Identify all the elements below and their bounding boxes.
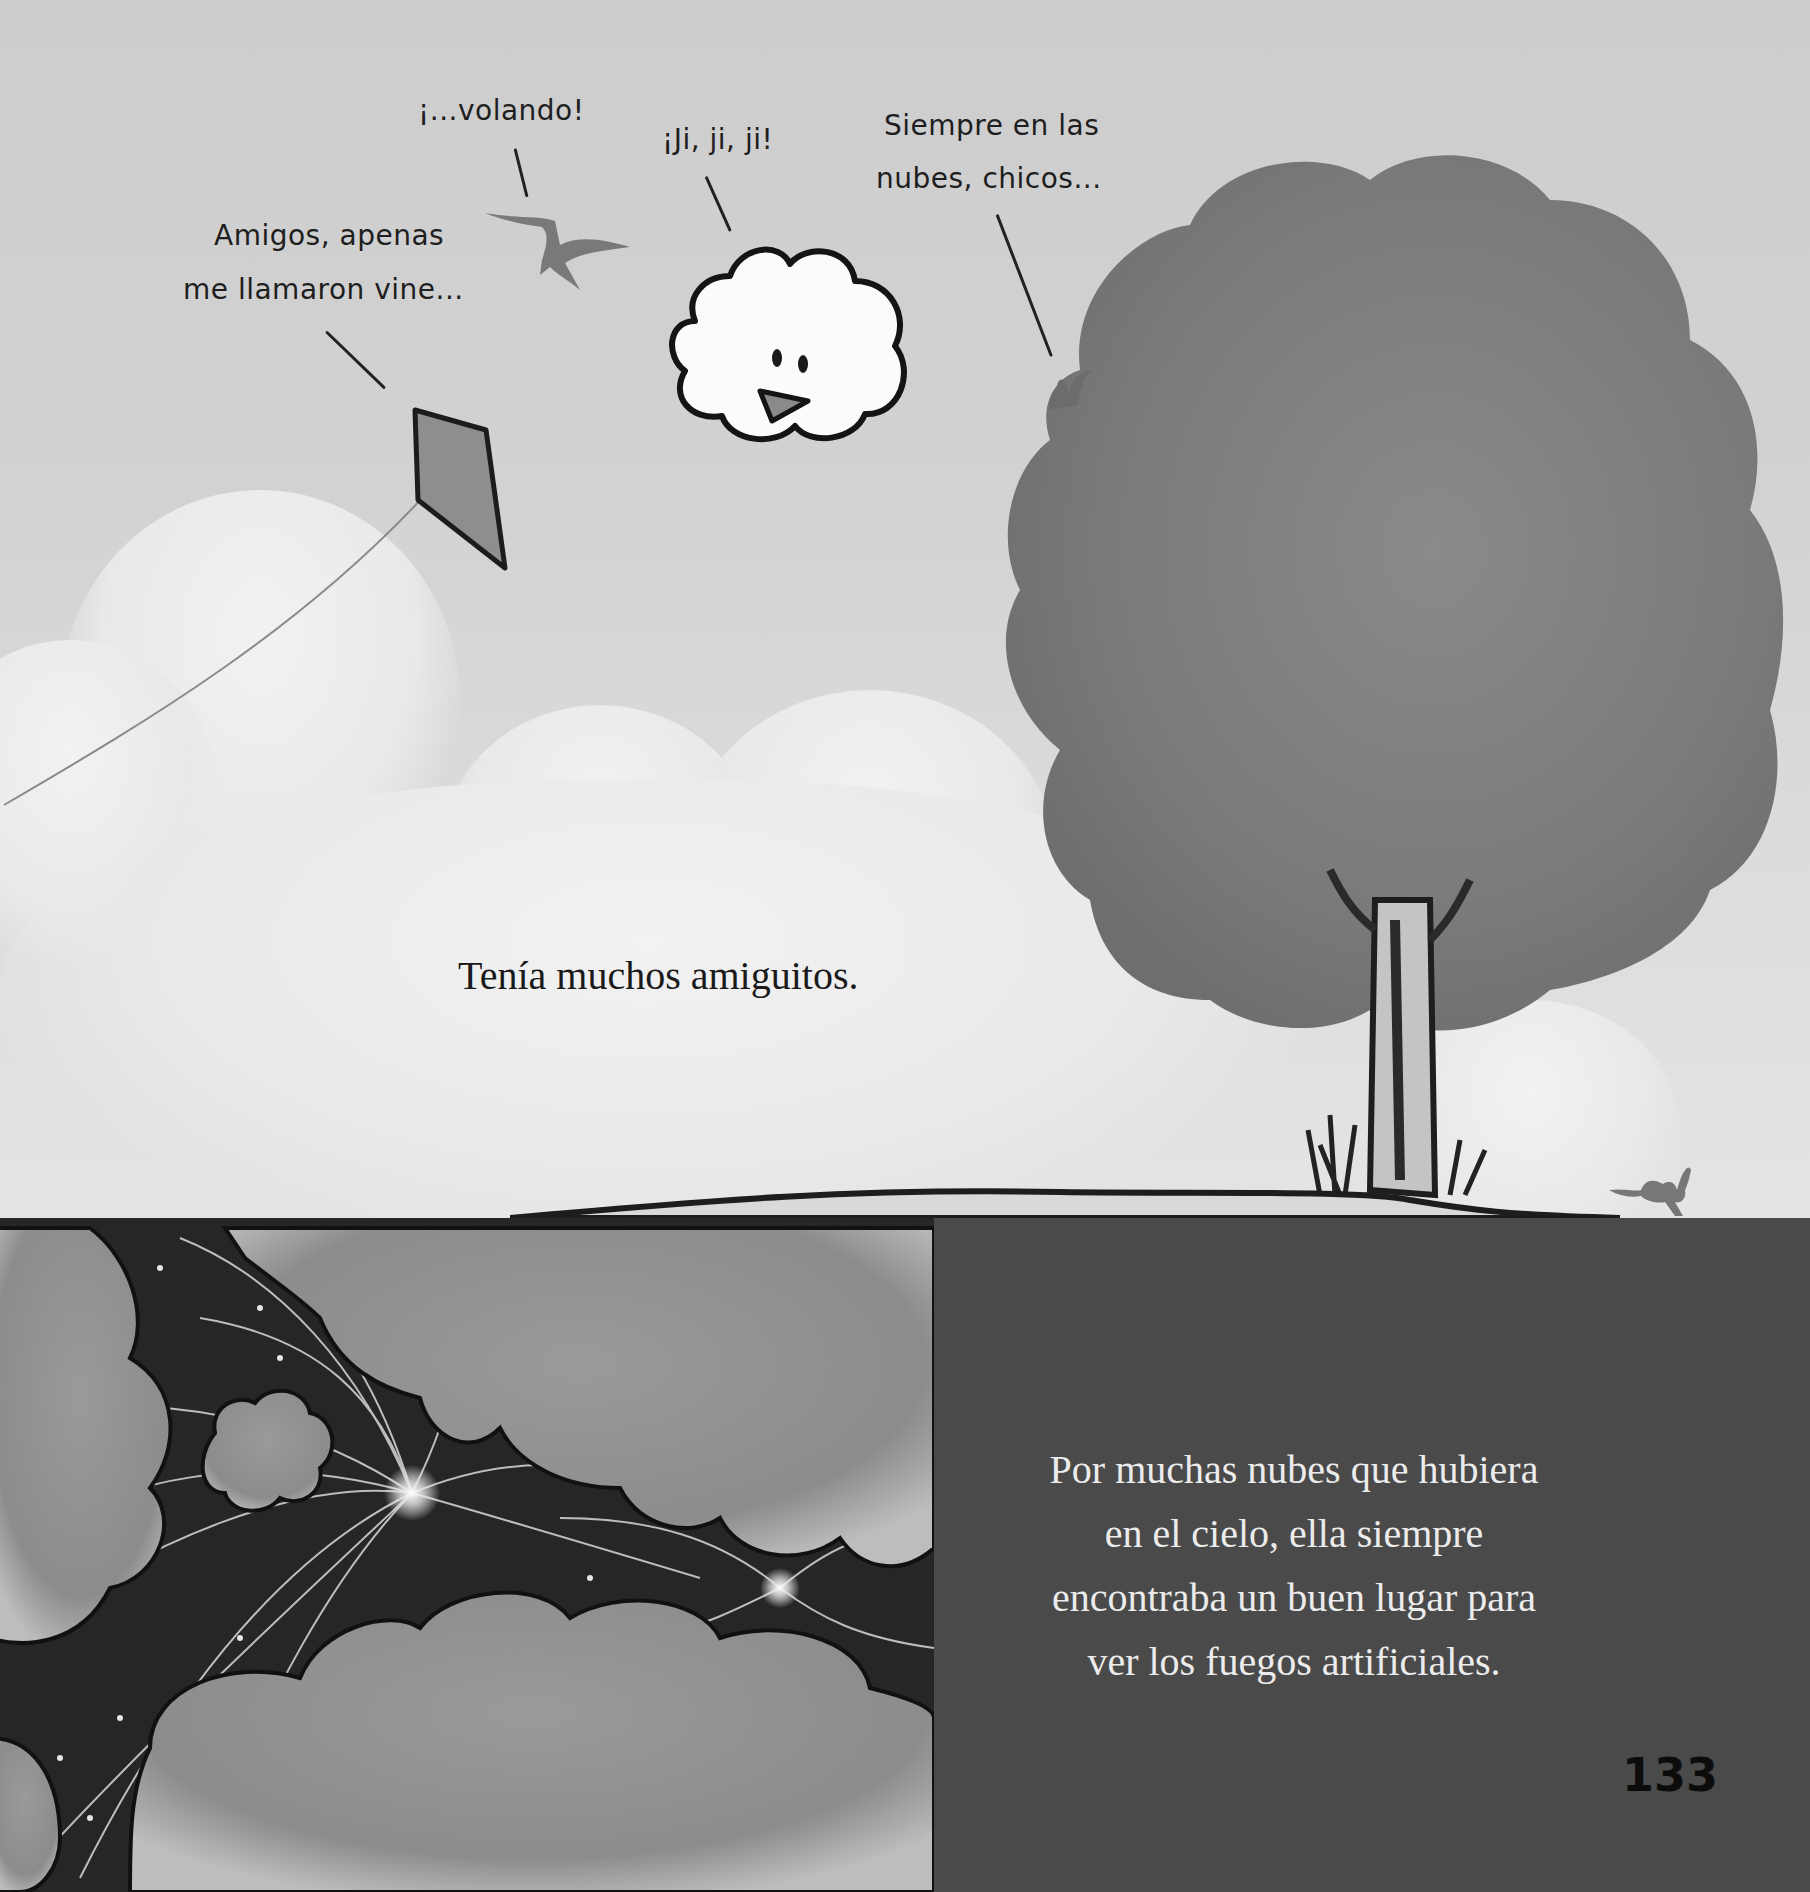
fireworks-icon [0, 1218, 934, 1892]
book-page: Amigos, apenas me llamaron vine... ¡...v… [0, 0, 1810, 1892]
speech-squirrel-line-1: Siempre en las [884, 112, 1099, 140]
speech-tail [514, 148, 529, 197]
speech-tail [705, 176, 732, 232]
speech-bird: ¡...volando! [418, 97, 584, 125]
smiling-cloud-icon [660, 236, 920, 446]
top-scene-illustration: Amigos, apenas me llamaron vine... ¡...v… [0, 0, 1810, 1218]
speech-cloud: ¡Ji, ji, ji! [662, 126, 773, 154]
bird-icon [480, 205, 640, 305]
text-panel: Por muchas nubes que hubiera en el cielo… [934, 1218, 1810, 1892]
speech-kite-line-2: me llamaron vine... [183, 276, 464, 304]
hill-icon [510, 1170, 1710, 1218]
panel-line-1: Por muchas nubes que hubiera [1014, 1438, 1574, 1502]
kite-icon [0, 380, 520, 900]
rabbit-icon [1605, 1160, 1705, 1218]
panel-line-2: en el cielo, ella siempre [1014, 1502, 1574, 1566]
panel-paragraph: Por muchas nubes que hubiera en el cielo… [1014, 1438, 1574, 1694]
narration-text: Tenía muchos amiguitos. [458, 952, 858, 999]
fireworks-illustration [0, 1218, 934, 1892]
page-number: 133 [1622, 1748, 1718, 1802]
panel-line-3: encontraba un buen lugar para [1014, 1566, 1574, 1630]
squirrel-icon [1040, 360, 1100, 420]
tree-icon [990, 140, 1810, 1218]
speech-kite-line-1: Amigos, apenas [214, 222, 444, 250]
panel-line-4: ver los fuegos artificiales. [1014, 1630, 1574, 1694]
